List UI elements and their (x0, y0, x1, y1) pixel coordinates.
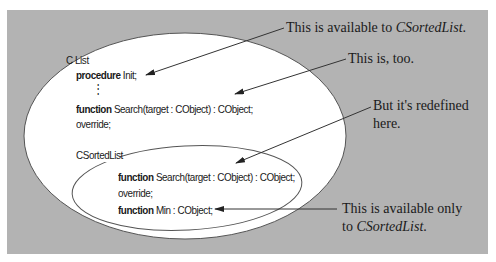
annotation-redefined-here: But it's redefined here. (373, 97, 469, 133)
annotation-available-only: This is available only to CSortedList. (342, 200, 462, 236)
csortedlist-function-search: function Search(target : CObject) : CObj… (118, 171, 295, 184)
clist-override: override; (76, 118, 111, 131)
keyword: procedure (76, 69, 121, 81)
keyword: function (118, 204, 154, 216)
clist-class-name: C List (66, 54, 89, 67)
csortedlist-override: override; (118, 187, 153, 200)
keyword: function (118, 171, 154, 183)
annotation-this-is-too: This is, too. (348, 50, 414, 68)
annotation-available-to-csortedlist: This is available to CSortedList. (286, 19, 466, 37)
diagram-canvas: C List procedure Init; ⋮ function Search… (0, 0, 496, 262)
ellipsis-icon: ⋮ (93, 85, 103, 93)
csortedlist-class-name: CSortedList (76, 149, 123, 162)
clist-function-search: function Search(target : CObject) : CObj… (76, 103, 253, 116)
keyword: function (76, 103, 112, 115)
csortedlist-function-min: function Min : CObject; (118, 204, 213, 217)
clist-procedure-init: procedure Init; (76, 69, 137, 82)
